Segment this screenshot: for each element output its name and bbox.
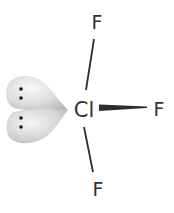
bond-right-wedge xyxy=(99,105,147,112)
bond-bottom xyxy=(84,127,93,172)
bond-top xyxy=(86,39,94,90)
atom-label-cl: Cl xyxy=(74,98,95,122)
electron-dot xyxy=(19,87,23,91)
atom-label-f-right: F xyxy=(154,98,165,120)
lone-pair-lobes xyxy=(6,76,68,143)
electron-dot xyxy=(19,125,23,129)
electron-dot xyxy=(19,116,23,120)
lone-pair-lobe-top xyxy=(6,76,68,111)
molecule-svg: Cl F F F xyxy=(0,0,174,213)
electron-dot xyxy=(19,96,23,100)
atom-label-f-bottom: F xyxy=(93,178,104,200)
clf3-diagram: Cl F F F xyxy=(0,0,174,213)
atom-label-f-top: F xyxy=(92,11,103,33)
lone-pair-lobe-bottom xyxy=(7,109,68,144)
